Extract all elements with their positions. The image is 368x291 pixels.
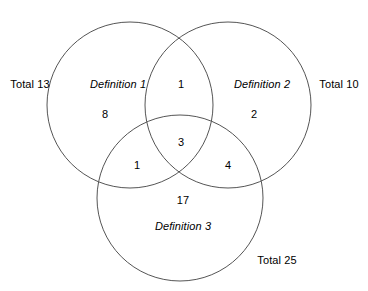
venn-diagram-canvas: Definition 1 Definition 2 Definition 3 T…	[0, 0, 368, 291]
circle-definition-1	[47, 22, 213, 188]
region-count-one-and-two: 1	[178, 79, 184, 90]
region-count-all-three: 3	[178, 137, 184, 148]
set-label-definition-2: Definition 2	[234, 79, 290, 90]
set-total-definition-1: Total 13	[10, 79, 49, 90]
set-label-definition-1: Definition 1	[90, 79, 146, 90]
region-count-one-and-three: 1	[134, 160, 140, 171]
region-count-only-2: 2	[251, 109, 257, 120]
set-total-definition-2: Total 10	[319, 79, 358, 90]
set-label-definition-3: Definition 3	[155, 221, 211, 232]
region-count-two-and-three: 4	[225, 160, 231, 171]
region-count-only-1: 8	[102, 109, 108, 120]
region-count-only-3: 17	[177, 195, 189, 206]
set-total-definition-3: Total 25	[257, 255, 296, 266]
